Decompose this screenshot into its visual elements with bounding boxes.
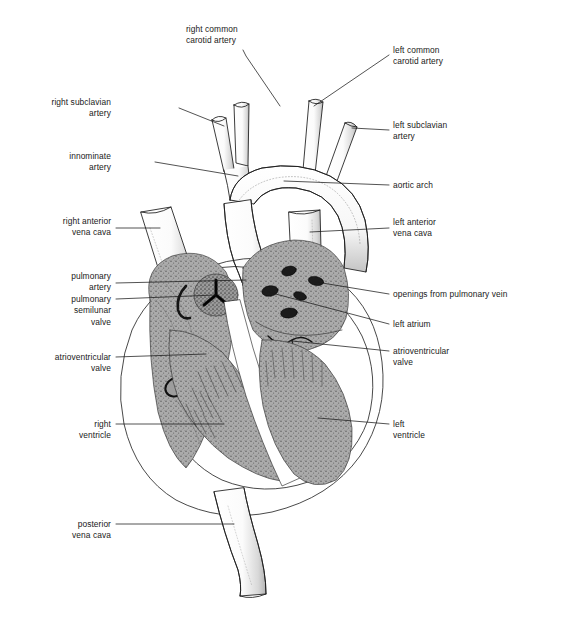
label-left-anterior-vena-cava: left anterior vena cava xyxy=(393,217,436,240)
left-subclavian-artery-vessel xyxy=(326,122,357,181)
label-left-common-carotid-artery: left common carotid artery xyxy=(393,45,443,68)
label-atrioventricular-valve-left: atrioventricular valve xyxy=(393,346,449,369)
label-right-ventricle: right ventricle xyxy=(0,419,111,442)
label-pulmonary-semilunar-valve: pulmonary semilunar valve xyxy=(0,294,111,328)
label-openings-from-pulmonary-vein: openings from pulmonary vein xyxy=(393,289,507,300)
label-right-common-carotid-artery-text: right common carotid artery xyxy=(186,24,238,47)
label-posterior-vena-cava: posterior vena cava xyxy=(0,519,111,542)
label-left-atrium: left atrium xyxy=(393,319,431,330)
label-right-subclavian-artery: right subclavian artery xyxy=(0,97,111,120)
label-right-anterior-vena-cava: right anterior vena cava xyxy=(0,216,111,239)
left-common-carotid-artery-vessel xyxy=(303,99,323,174)
label-aortic-arch: aortic arch xyxy=(393,180,433,191)
posterior-vena-cava-vessel xyxy=(214,488,266,598)
label-innominate-artery: innominate artery xyxy=(0,151,111,174)
label-left-ventricle: left ventricle xyxy=(393,419,425,442)
label-pulmonary-artery: pulmonary artery xyxy=(0,271,111,294)
right-subclavian-artery-vessel xyxy=(212,116,234,172)
label-atrioventricular-valve-right: atrioventricular valve xyxy=(0,352,111,375)
heart-anatomy-figure: right common carotid artery left common … xyxy=(0,0,561,619)
right-common-carotid-artery-vessel xyxy=(234,102,249,166)
label-left-subclavian-artery: left subclavian artery xyxy=(393,120,447,143)
